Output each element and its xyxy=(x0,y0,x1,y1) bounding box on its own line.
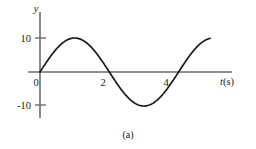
x-axis-label-unit: (s) xyxy=(223,76,235,88)
y-tick-label-positive-ten: 10 xyxy=(21,33,32,44)
figure-caption: (a) xyxy=(122,129,133,141)
x-tick-label-two: 2 xyxy=(100,77,105,88)
figure-container: y 10 -10 0 2 4 t(s) (a) xyxy=(0,0,256,149)
plot-canvas: y 10 -10 0 2 4 t(s) (a) xyxy=(0,0,256,149)
x-tick-label-zero: 0 xyxy=(33,77,38,88)
x-tick-label-four: 4 xyxy=(163,77,169,88)
y-axis-label: y xyxy=(33,3,39,14)
y-tick-label-negative-ten: -10 xyxy=(17,100,31,111)
x-axis-label: t(s) xyxy=(220,76,235,88)
